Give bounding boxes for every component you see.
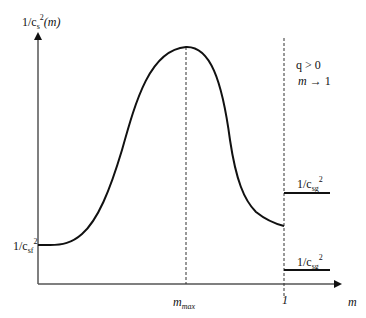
condition-m: m → 1 (298, 75, 331, 87)
x-axis-label: m (348, 296, 357, 308)
upper-level-label: 1/csg2 (297, 176, 323, 193)
sound-speed-curve (38, 47, 284, 245)
y-axis-label: 1/cs2(m) (22, 14, 60, 31)
left-level-label: 1/csf2 (13, 238, 37, 255)
condition-q: q > 0 (296, 59, 321, 71)
x-tick-one: 1 (282, 294, 288, 306)
lower-level-label: 1/csg2 (297, 254, 323, 271)
x-tick-m-max: mmax (173, 296, 195, 311)
